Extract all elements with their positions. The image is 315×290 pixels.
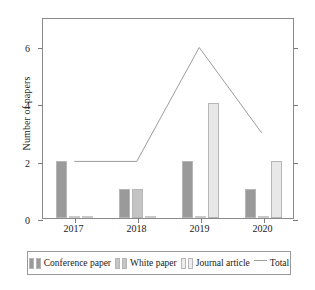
y-axis-tick: 4 — [38, 105, 43, 106]
chart-legend: Conference paper White paper Journal art… — [27, 251, 291, 275]
y-axis-tick-right — [293, 220, 298, 221]
y-axis-tick-label: 0 — [25, 216, 30, 226]
bar-journal-article-2020 — [271, 161, 282, 218]
legend-label-journal-article: Journal article — [196, 258, 250, 268]
legend-item-total[interactable]: Total — [254, 258, 289, 268]
bar-white-paper-2017 — [69, 216, 80, 218]
bar-journal-article-2017 — [82, 216, 93, 218]
legend-label-conference-paper: Conference paper — [44, 258, 111, 268]
bar-white-paper-2018 — [132, 189, 143, 218]
x-axis-tick-label: 2020 — [253, 224, 273, 234]
x-axis-tick-label: 2017 — [64, 224, 84, 234]
plot-area: 0246 — [42, 18, 294, 219]
y-axis-tick-label: 6 — [25, 44, 30, 54]
bar-journal-article-2019 — [208, 103, 219, 218]
chart-figure: Number of papers 0246 2017201820192020 C… — [0, 0, 315, 290]
bar-swatch-mid-icon — [115, 258, 127, 269]
bar-journal-article-2018 — [145, 216, 156, 218]
legend-item-white-paper[interactable]: White paper — [115, 258, 177, 269]
bar-conference-paper-2019 — [182, 161, 193, 218]
bar-swatch-light-icon — [181, 258, 193, 269]
line-segment-icon — [254, 260, 267, 261]
y-axis-tick-label: 2 — [25, 159, 30, 169]
bar-conference-paper-2018 — [119, 189, 130, 218]
y-axis-tick-right — [293, 163, 298, 164]
bar-conference-paper-2017 — [56, 161, 67, 218]
x-axis-tick-label: 2019 — [190, 224, 210, 234]
plot-inner: 0246 — [43, 19, 293, 218]
x-axis-tick-label: 2018 — [127, 224, 147, 234]
total-line-path — [74, 47, 261, 161]
y-axis-tick: 2 — [38, 163, 43, 164]
legend-label-total: Total — [270, 258, 289, 268]
bar-swatch-dark-icon — [29, 258, 41, 269]
bar-conference-paper-2020 — [245, 189, 256, 218]
legend-label-white-paper: White paper — [130, 258, 177, 268]
y-axis-tick-right — [293, 48, 298, 49]
legend-item-journal-article[interactable]: Journal article — [181, 258, 250, 269]
bar-white-paper-2020 — [258, 216, 269, 218]
y-axis-tick-right — [293, 105, 298, 106]
y-axis-tick: 6 — [38, 48, 43, 49]
bar-white-paper-2019 — [195, 216, 206, 218]
y-axis-tick: 0 — [38, 220, 43, 221]
legend-item-conference-paper[interactable]: Conference paper — [29, 258, 111, 269]
y-axis-tick-label: 4 — [25, 101, 30, 111]
